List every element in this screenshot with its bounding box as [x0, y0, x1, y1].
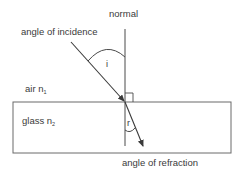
refraction-diagram: normal angle of incidence i air n1 glass…	[0, 0, 247, 170]
air-label-text: air n	[25, 83, 43, 94]
glass-label: glass n2	[22, 115, 55, 127]
glass-label-subscript: 2	[52, 121, 55, 127]
angle-of-incidence-label: angle of incidence	[21, 26, 98, 37]
air-label-subscript: 1	[43, 89, 46, 95]
incidence-symbol: i	[106, 59, 108, 69]
right-angle-marker	[125, 93, 133, 102]
normal-label: normal	[109, 8, 138, 19]
air-label: air n1	[25, 83, 47, 95]
refraction-arc	[125, 128, 135, 132]
glass-block	[13, 102, 231, 153]
glass-label-text: glass n	[22, 115, 52, 126]
refraction-symbol: r	[127, 118, 130, 128]
angle-of-refraction-label: angle of refraction	[122, 157, 198, 168]
